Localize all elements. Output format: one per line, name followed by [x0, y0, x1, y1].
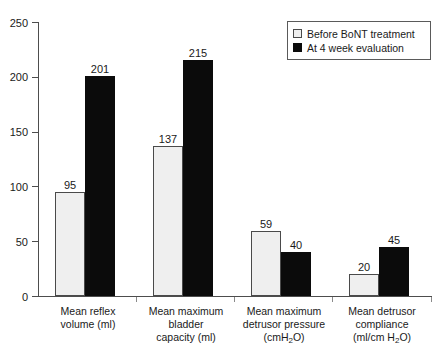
x-tick-group-sep-1 — [136, 297, 137, 302]
x-category-label-3: Mean maximum detrusor pressure (cmH2O) — [235, 305, 333, 345]
x-category-label-4: Mean detrusor compliance (ml/cm H2O) — [333, 305, 431, 345]
x-axis-line — [38, 296, 432, 297]
legend-swatch-before-icon — [293, 29, 302, 38]
bar-before-mean-detrusor-compliance: 20 — [349, 274, 379, 296]
x-category-label-3-line-1: Mean maximum — [235, 305, 333, 318]
plot-area: 95 201 137 215 59 40 20 45 — [38, 22, 432, 296]
x-category-label-4-line-3: (ml/cm H2O) — [333, 331, 431, 345]
bar-value-after-mean-reflex-volume: 201 — [91, 63, 109, 75]
y-tick-label-150: 150 — [10, 127, 28, 138]
bar-before-mean-reflex-volume: 95 — [55, 192, 85, 296]
bar-before-mean-maximum-bladder-capacity: 137 — [153, 146, 183, 296]
y-tick-label-250: 250 — [10, 17, 28, 28]
bar-value-after-mean-maximum-detrusor-pressure: 40 — [290, 239, 302, 251]
legend-item-before: Before BoNT treatment — [293, 27, 425, 40]
bar-after-mean-detrusor-compliance: 45 — [379, 247, 409, 296]
x-category-label-4-line-1: Mean detrusor — [333, 305, 431, 318]
bar-value-after-mean-maximum-bladder-capacity: 215 — [189, 47, 207, 59]
x-category-label-2: Mean maximum bladder capacity (ml) — [137, 305, 235, 344]
bar-value-before-mean-detrusor-compliance: 20 — [358, 261, 370, 273]
bar-before-mean-maximum-detrusor-pressure: 59 — [251, 231, 281, 296]
x-category-label-1: Mean reflex volume (ml) — [39, 305, 137, 331]
bar-after-mean-reflex-volume: 201 — [85, 76, 115, 296]
legend-item-after: At 4 week evaluation — [293, 41, 425, 54]
x-category-label-1-line-1: Mean reflex — [39, 305, 137, 318]
bar-value-before-mean-maximum-bladder-capacity: 137 — [159, 133, 177, 145]
x-category-label-2-line-3: capacity (ml) — [137, 331, 235, 344]
legend-swatch-after-icon — [293, 43, 302, 52]
x-category-label-4-line-2: compliance — [333, 318, 431, 331]
legend-label-after: At 4 week evaluation — [307, 42, 404, 54]
x-category-label-1-line-2: volume (ml) — [39, 318, 137, 331]
x-tick-group-sep-3 — [332, 297, 333, 302]
x-category-label-2-line-1: Mean maximum — [137, 305, 235, 318]
bar-value-before-mean-reflex-volume: 95 — [64, 179, 76, 191]
bar-value-before-mean-maximum-detrusor-pressure: 59 — [260, 218, 272, 230]
x-category-label-2-line-2: bladder — [137, 318, 235, 331]
y-tick-label-100: 100 — [10, 181, 28, 192]
x-tick-axis-end — [431, 297, 432, 302]
x-tick-group-sep-2 — [234, 297, 235, 302]
legend-label-before: Before BoNT treatment — [307, 28, 415, 40]
y-tick-label-0: 0 — [22, 291, 28, 302]
y-tick-label-200: 200 — [10, 72, 28, 83]
bar-after-mean-maximum-detrusor-pressure: 40 — [281, 252, 311, 296]
y-tick-label-50: 50 — [16, 236, 28, 247]
x-category-label-3-line-3: (cmH2O) — [235, 331, 333, 345]
bar-chart: 0 50 100 150 200 250 95 201 137 215 — [0, 0, 439, 358]
bar-after-mean-maximum-bladder-capacity: 215 — [183, 60, 213, 296]
x-category-label-3-line-2: detrusor pressure — [235, 318, 333, 331]
bar-value-after-mean-detrusor-compliance: 45 — [388, 234, 400, 246]
legend: Before BoNT treatment At 4 week evaluati… — [287, 21, 431, 60]
